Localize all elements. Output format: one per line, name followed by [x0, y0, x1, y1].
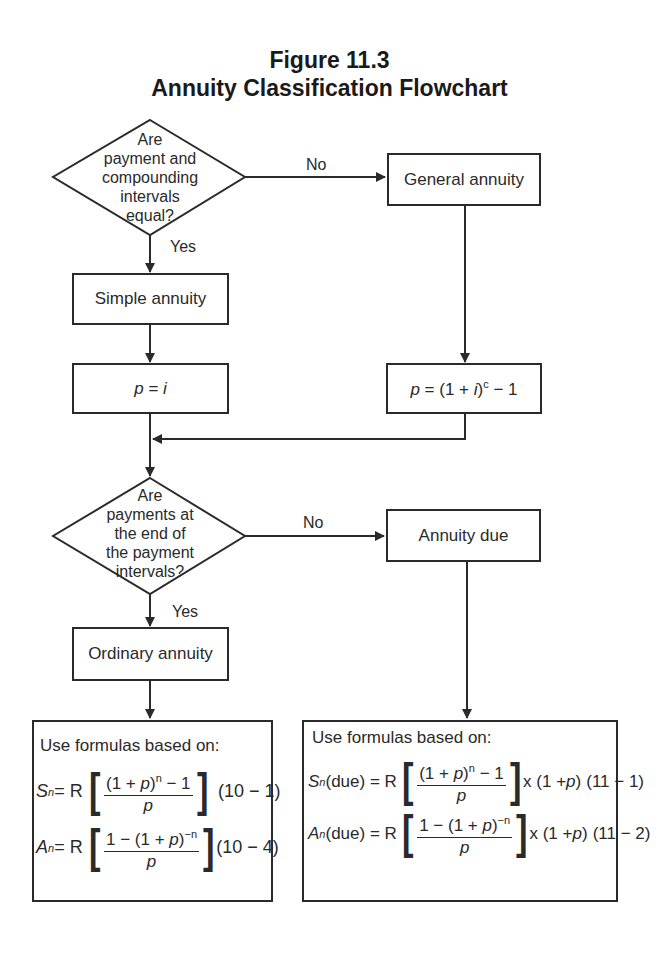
decision1-line: payment and	[70, 149, 230, 168]
ordinary-formulas-heading: Use formulas based on:	[40, 736, 220, 756]
decision2-line: intervals?	[70, 562, 230, 581]
ordinary-pv-formula: An = R [ 1 − (1 + p)−np ] (10 − 4)	[36, 824, 279, 872]
p-equals-i-box: p = i	[72, 363, 229, 414]
p-equals-i-formula: p = i	[134, 379, 167, 399]
ordinary-formulas-box: Use formulas based on: Sn = R [ (1 + p)n…	[32, 720, 273, 902]
decision2-line: the end of	[70, 524, 230, 543]
due-formulas-heading: Use formulas based on:	[312, 728, 492, 748]
decision1-line: compounding	[70, 168, 230, 187]
annuity-due-box: Annuity due	[386, 509, 541, 562]
p-general-formula: p = (1 + i)c − 1	[410, 378, 517, 400]
decision1-line: Are	[70, 130, 230, 149]
decision1-line: equal?	[70, 206, 230, 225]
simple-annuity-label: Simple annuity	[95, 289, 207, 309]
due-formulas-box: Use formulas based on: Sn(due) = R [ (1 …	[302, 720, 618, 902]
decision2-text: Are payments at the end of the payment i…	[70, 486, 230, 581]
annuity-due-label: Annuity due	[419, 526, 509, 546]
decision1-text: Are payment and compounding intervals eq…	[70, 130, 230, 225]
ordinary-fv-formula: Sn = R [ (1 + p)n − 1p ] (10 − 1)	[36, 768, 280, 816]
due-fv-formula: Sn(due) = R [ (1 + p)n − 1p ] x (1 + p) …	[308, 758, 644, 806]
p-general-box: p = (1 + i)c − 1	[386, 363, 542, 414]
general-annuity-box: General annuity	[387, 153, 541, 206]
ordinary-annuity-label: Ordinary annuity	[88, 644, 213, 664]
decision1-yes-label: Yes	[170, 238, 196, 256]
ordinary-annuity-box: Ordinary annuity	[72, 627, 229, 681]
decision2-yes-label: Yes	[172, 603, 198, 621]
decision2-line: the payment	[70, 543, 230, 562]
due-pv-formula: An(due) = R [ 1 − (1 + p)−np ] x (1 + p)…	[308, 810, 650, 858]
simple-annuity-box: Simple annuity	[72, 273, 229, 325]
decision2-line: payments at	[70, 505, 230, 524]
general-annuity-label: General annuity	[404, 170, 524, 190]
decision2-line: Are	[70, 486, 230, 505]
decision2-no-label: No	[303, 514, 323, 532]
decision1-no-label: No	[306, 156, 326, 174]
decision1-line: intervals	[70, 187, 230, 206]
